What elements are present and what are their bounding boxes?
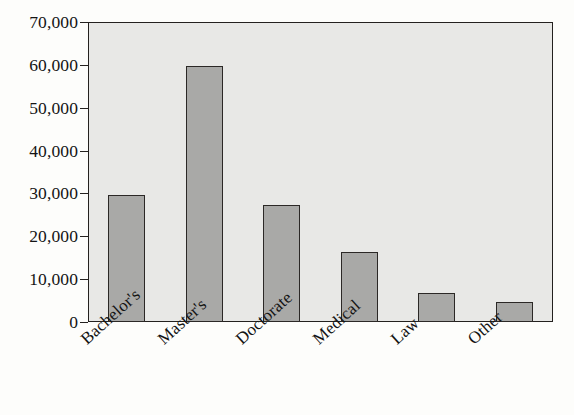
y-axis-tick-label: 10,000 — [0, 269, 78, 290]
y-axis-tick-mark — [80, 22, 88, 23]
y-axis-tick-label: 60,000 — [0, 54, 78, 75]
y-axis-tick-mark — [80, 108, 88, 109]
y-axis-tick-label: 20,000 — [0, 226, 78, 247]
y-axis-tick-label: 30,000 — [0, 183, 78, 204]
bar — [186, 66, 223, 322]
y-axis-tick-mark — [80, 151, 88, 152]
bars-layer — [88, 22, 553, 322]
y-axis-tick-mark — [80, 236, 88, 237]
y-axis-tick-mark — [80, 65, 88, 66]
y-axis-tick-mark — [80, 279, 88, 280]
x-axis: Bachelor'sMaster'sDoctorateMedicalLawOth… — [0, 322, 574, 415]
y-axis-tick-label: 50,000 — [0, 97, 78, 118]
y-axis-tick-label: 70,000 — [0, 12, 78, 33]
y-axis-tick-label: 40,000 — [0, 140, 78, 161]
y-axis-tick-mark — [80, 193, 88, 194]
bar — [418, 293, 455, 322]
bar-chart: 010,00020,00030,00040,00050,00060,00070,… — [0, 0, 574, 415]
